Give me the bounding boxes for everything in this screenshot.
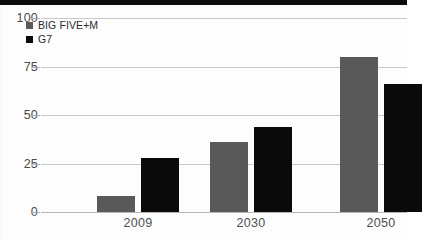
plot-area (41, 18, 407, 212)
x-tick-label: 2030 (236, 216, 265, 230)
x-tick-label: 2009 (123, 216, 152, 230)
y-tick-mark (31, 67, 40, 68)
y-tick-mark (31, 115, 40, 116)
bar-2009-big-five-m (97, 196, 135, 212)
bar-2030-g7 (254, 127, 292, 212)
bar-2030-big-five-m (210, 142, 248, 212)
chart-legend: BIG FIVE+MG7 (26, 19, 98, 47)
bar-2050-big-five-m (340, 57, 378, 212)
legend-item-label: BIG FIVE+M (38, 19, 98, 31)
y-tick-mark (31, 212, 40, 213)
legend-swatch-icon (26, 22, 33, 29)
bar-2050-g7 (384, 84, 422, 212)
top-edge-scan-band (0, 0, 407, 5)
axis-baseline (41, 212, 407, 213)
bar-2009-g7 (141, 158, 179, 212)
legend-item: BIG FIVE+M (26, 19, 98, 31)
y-tick-mark (31, 164, 40, 165)
legend-item: G7 (26, 33, 98, 45)
x-axis: 200920302050 (41, 216, 407, 236)
x-tick-label: 2050 (366, 216, 395, 230)
legend-item-label: G7 (38, 33, 52, 45)
legend-swatch-icon (26, 36, 33, 43)
